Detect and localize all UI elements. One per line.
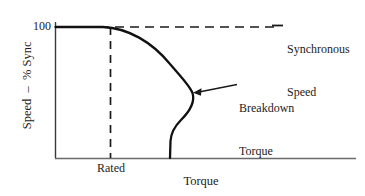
rated-torque-label: Rated [88, 161, 134, 175]
breakdown-torque-annotation-line-1: Breakdown [239, 101, 294, 115]
breakdown-torque-arrowhead [193, 88, 202, 96]
synchronous-speed-annotation-line-1: Synchronous [287, 42, 350, 56]
synchronous-speed-annotation: Synchronous Speed [287, 14, 350, 127]
x-axis-title: Torque [160, 174, 242, 189]
breakdown-torque-leader-line [199, 85, 237, 93]
speed-torque-figure: 100 Speed – % Sync Torque Rated Synchron… [0, 0, 365, 196]
y-axis-title: Speed – % Sync [20, 25, 35, 145]
synchronous-speed-annotation-line-2: Speed [287, 85, 350, 99]
y-axis-tick-label-100: 100 [33, 19, 51, 33]
breakdown-torque-annotation: Breakdown Torque [239, 73, 294, 186]
speed-torque-curve [56, 27, 194, 158]
breakdown-torque-annotation-line-2: Torque [239, 144, 294, 158]
